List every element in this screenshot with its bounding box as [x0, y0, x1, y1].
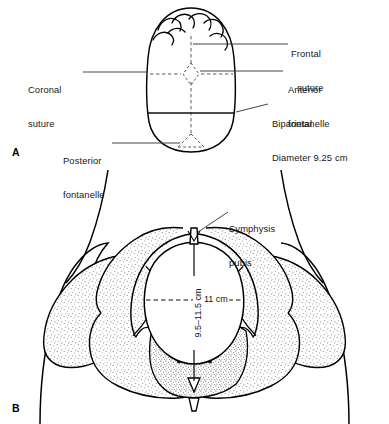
label-biparietal-diameter: Biparietal Diameter 9.25 cm — [272, 96, 348, 186]
dimension-transverse-11cm: 11 cm — [203, 294, 229, 304]
label-symphysis-pubis-line2: pubis — [229, 257, 275, 268]
leader-biparietal — [236, 104, 268, 112]
label-frontal-suture-line1: Frontal — [291, 48, 324, 59]
coccyx-tip — [189, 398, 199, 411]
panel-letter-b: B — [12, 402, 20, 414]
figure-container: Coronal suture Frontal suture Anterior f… — [0, 0, 389, 424]
label-symphysis-pubis-line1: Symphysis — [229, 223, 275, 234]
label-coronal-suture-line2: suture — [28, 118, 62, 129]
panel-a-skull-drawing — [83, 8, 288, 152]
label-coronal-suture-line1: Coronal — [28, 84, 62, 95]
label-biparietal-line2: Diameter 9.25 cm — [272, 152, 348, 163]
dimension-ap-9-5-to-11-5cm: 9.5–11.5 cm — [193, 276, 203, 350]
label-posterior-fontanelle-line1: Posterior — [63, 155, 105, 166]
label-posterior-fontanelle-line2: fontanelle — [63, 189, 105, 200]
label-symphysis-pubis: Symphysis pubis — [229, 201, 275, 291]
panel-letter-a: A — [12, 146, 20, 158]
label-anterior-fontanelle-line1: Anterior — [288, 84, 330, 95]
label-posterior-fontanelle: Posterior fontanelle — [63, 133, 105, 223]
label-biparietal-line1: Biparietal — [272, 118, 348, 129]
label-coronal-suture: Coronal suture — [28, 62, 62, 152]
